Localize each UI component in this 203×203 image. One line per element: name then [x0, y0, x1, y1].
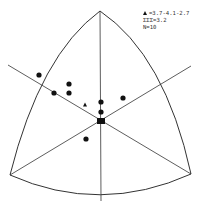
mean-triangle-marker — [83, 103, 87, 107]
axis-vertical — [100, 11, 101, 201]
legend-sdi: ΣΣΣ=3.2 — [143, 17, 189, 24]
triangle-icon — [143, 11, 147, 15]
data-point — [83, 136, 88, 141]
data-point — [98, 109, 103, 114]
legend-mean-value: =3.7-4.1-2.7 — [149, 10, 189, 16]
legend-mean-row: =3.7-4.1-2.7 — [143, 10, 189, 17]
data-point — [51, 90, 56, 95]
data-point — [66, 81, 71, 86]
data-point — [98, 99, 103, 104]
legend-n: N=10 — [143, 24, 189, 31]
legend: =3.7-4.1-2.7 ΣΣΣ=3.2 N=10 — [143, 10, 189, 31]
data-point — [120, 95, 125, 100]
center-square-point — [97, 118, 105, 124]
data-point — [36, 72, 41, 77]
data-points — [36, 72, 125, 141]
data-point — [66, 90, 71, 95]
